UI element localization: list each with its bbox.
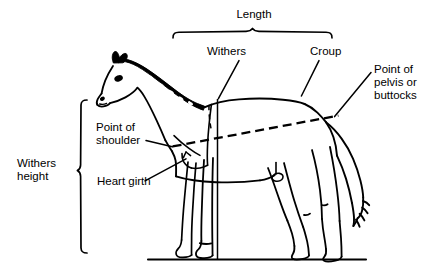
withers-leader bbox=[218, 61, 239, 99]
leader-lines bbox=[145, 61, 371, 181]
label-point-of-pelvis-line2: pelvis or bbox=[374, 76, 417, 89]
horse-shoulder-lines bbox=[174, 136, 200, 158]
horse-far-foreleg bbox=[176, 162, 196, 257]
horse-mane bbox=[112, 51, 204, 110]
point-of-pelvis-leader bbox=[335, 73, 371, 117]
horse-rump-and-tail bbox=[326, 122, 369, 227]
length-brace bbox=[173, 28, 332, 38]
length-dashed-line bbox=[173, 105, 339, 146]
label-point-of-shoulder-line1: Point of bbox=[96, 121, 135, 134]
label-heart-girth: Heart girth bbox=[97, 175, 151, 188]
label-point-of-shoulder-line2: shoulder bbox=[96, 134, 140, 147]
diagram-canvas: Length Withers Croup Point of pelvis or … bbox=[0, 0, 436, 277]
horse-hind-legs bbox=[268, 147, 342, 261]
label-withers: Withers bbox=[207, 45, 246, 58]
label-croup: Croup bbox=[310, 45, 341, 58]
label-point-of-pelvis-line3: buttocks bbox=[374, 89, 417, 102]
point-of-shoulder-leader bbox=[146, 141, 172, 147]
horse-body-outline bbox=[165, 99, 326, 183]
croup-leader bbox=[301, 61, 319, 96]
horse-underline-detail bbox=[272, 163, 283, 182]
label-withers-height-line2: height bbox=[17, 170, 48, 183]
horse-conformation-drawing bbox=[0, 0, 436, 277]
horse-mouth-line bbox=[100, 103, 107, 104]
label-length: Length bbox=[226, 8, 282, 21]
label-point-of-pelvis-line1: Point of bbox=[374, 63, 413, 76]
label-withers-height-line1: Withers bbox=[17, 157, 56, 170]
withers-height-brace bbox=[77, 100, 87, 253]
horse-near-foreleg bbox=[196, 158, 213, 258]
